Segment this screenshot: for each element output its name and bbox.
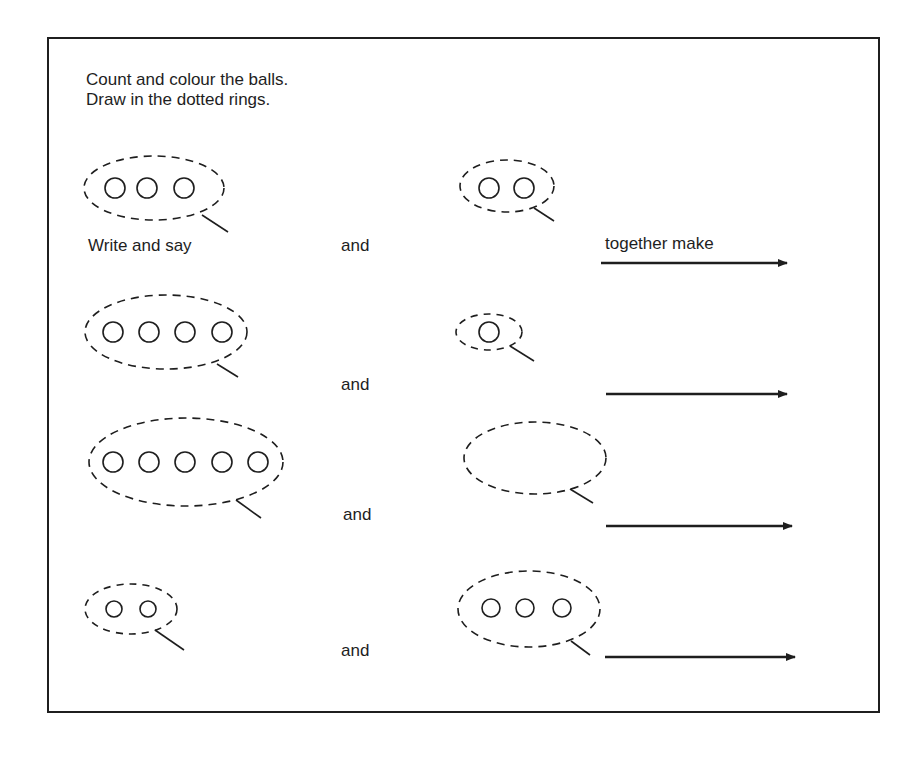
ball-icon <box>479 322 499 342</box>
instruction-line-1: Count and colour the balls. <box>86 70 288 90</box>
and-label-row-2: and <box>341 375 369 395</box>
write-and-say-label: Write and say <box>88 236 192 256</box>
ball-icon <box>137 178 157 198</box>
ball-icon <box>516 599 534 617</box>
ball-icon <box>212 322 232 342</box>
ball-icon <box>175 452 195 472</box>
ball-icon <box>140 601 156 617</box>
and-label-row-3: and <box>343 505 371 525</box>
ball-icon <box>103 452 123 472</box>
ball-icon <box>105 178 125 198</box>
ball-icon <box>139 452 159 472</box>
ball-icon <box>479 178 499 198</box>
ball-icon <box>103 322 123 342</box>
ball-icon <box>174 178 194 198</box>
ball-icon <box>212 452 232 472</box>
ball-icon <box>482 599 500 617</box>
instruction-line-2: Draw in the dotted rings. <box>86 90 270 110</box>
ball-icon <box>139 322 159 342</box>
ball-icon <box>553 599 571 617</box>
and-label-row-4: and <box>341 641 369 661</box>
and-label-row-1: and <box>341 236 369 256</box>
ball-icon <box>106 601 122 617</box>
ball-icon <box>248 452 268 472</box>
together-make-label: together make <box>605 234 714 254</box>
ball-icon <box>514 178 534 198</box>
ball-icon <box>175 322 195 342</box>
